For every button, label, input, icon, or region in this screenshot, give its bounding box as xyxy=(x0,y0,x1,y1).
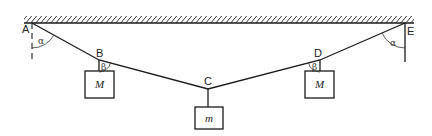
angle-label-alpha-left: α xyxy=(38,36,44,46)
angle-label-beta-left: β xyxy=(101,62,106,72)
mass-center-label: m xyxy=(205,112,213,124)
mass-left-label: M xyxy=(94,78,105,90)
ceiling-hatching xyxy=(24,16,414,23)
point-label-a: A xyxy=(22,23,30,35)
point-label-c: C xyxy=(204,75,212,87)
angle-label-beta-right: β xyxy=(312,62,317,72)
point-label-e: E xyxy=(407,25,414,37)
mass-right-label: M xyxy=(314,78,325,90)
rope-masses-diagram: M m M α β β α A B C D E xyxy=(0,0,432,136)
point-label-d: D xyxy=(314,47,322,59)
point-label-b: B xyxy=(96,47,103,59)
mass-left: M xyxy=(85,71,114,98)
ceiling xyxy=(24,16,414,23)
mass-right: M xyxy=(305,71,334,98)
mass-center: m xyxy=(195,107,223,129)
angle-label-alpha-right: α xyxy=(390,38,396,48)
